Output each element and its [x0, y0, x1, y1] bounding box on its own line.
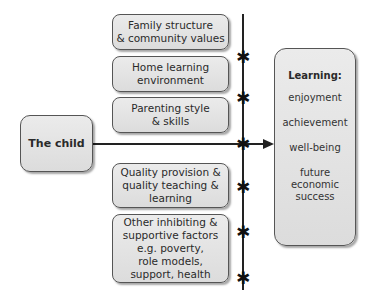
factor-label-line: & skills	[152, 115, 189, 128]
child-node: The child	[20, 115, 93, 172]
asterisk-marker-icon: ✱	[236, 50, 250, 64]
outcome-line: well-being	[289, 142, 340, 154]
outcome-line: enjoyment	[288, 92, 341, 104]
factor-label-line: environment	[137, 74, 204, 87]
arrow-head-icon	[263, 139, 274, 149]
outcome-future-economic-success: future economic success	[291, 167, 339, 203]
outcome-line: achievement	[282, 117, 347, 129]
learning-outcomes-node: Learning: enjoyment achievement well-bei…	[274, 48, 356, 246]
factor-label-line: role models,	[138, 255, 203, 268]
asterisk-marker-icon: ✱	[236, 180, 250, 194]
asterisk-marker-icon: ✱	[236, 271, 250, 285]
outcome-well-being: well-being	[289, 142, 340, 154]
asterisk-marker-icon: ✱	[236, 137, 250, 151]
factor-label-line: Home learning	[132, 61, 209, 74]
asterisk-marker-icon: ✱	[236, 91, 250, 105]
factor-label-line: e.g. poverty,	[137, 242, 204, 255]
child-label: The child	[28, 137, 84, 150]
factor-label-line: quality teaching &	[122, 179, 218, 192]
outcome-achievement: achievement	[282, 117, 347, 129]
factor-label-line: supportive factors	[123, 229, 218, 242]
outcome-line: economic	[291, 179, 339, 191]
outcome-enjoyment: enjoyment	[288, 92, 341, 104]
factor-family-structure: Family structure & community values	[112, 14, 229, 50]
factor-label-line: Family structure	[128, 19, 213, 32]
factor-parenting-style: Parenting style & skills	[112, 97, 229, 133]
factor-label-line: Quality provision &	[120, 166, 220, 179]
factor-quality-provision: Quality provision & quality teaching & l…	[112, 163, 229, 208]
factor-label-line: Parenting style	[131, 102, 209, 115]
asterisk-marker-icon: ✱	[236, 225, 250, 239]
factor-home-learning: Home learning environment	[112, 56, 229, 92]
factor-label-line: learning	[149, 192, 192, 205]
factor-label-line: & community values	[116, 32, 224, 45]
learning-title: Learning:	[288, 69, 342, 82]
outcome-line: success	[291, 191, 339, 203]
factor-label-line: support, health	[130, 268, 210, 281]
factor-other-inhibiting: Other inhibiting & supportive factors e.…	[112, 214, 229, 283]
factor-label-line: Other inhibiting &	[124, 216, 218, 229]
outcome-line: future	[291, 167, 339, 179]
